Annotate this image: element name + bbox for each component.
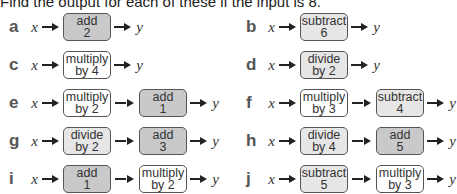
problem-h: h x divide by 4 add 5 y <box>237 126 457 156</box>
arrow-icon <box>427 136 445 146</box>
function-machine-add: add 1 <box>139 89 187 117</box>
function-machine-multiply: multiply by 3 <box>376 165 424 193</box>
arrow-icon <box>190 136 208 146</box>
function-machine-add: add 1 <box>63 165 111 193</box>
operation-value: by 4 <box>75 65 99 77</box>
operation-value: 1 <box>84 179 91 191</box>
output-variable: y <box>372 57 381 74</box>
output-variable: y <box>448 171 457 188</box>
input-variable: x <box>267 19 276 36</box>
problem-letter: g <box>0 131 30 151</box>
output-variable: y <box>211 95 220 112</box>
input-variable: x <box>267 95 276 112</box>
function-machine-multiply: multiply by 3 <box>300 89 348 117</box>
operation-value: by 2 <box>75 103 99 115</box>
operation-value: 6 <box>321 27 328 39</box>
arrow-icon <box>279 98 297 108</box>
operation-value: 5 <box>397 141 404 153</box>
arrow-icon <box>279 174 297 184</box>
function-machine-multiply: multiply by 4 <box>63 51 111 79</box>
function-machine-subtract: subtract 5 <box>300 165 348 193</box>
input-variable: x <box>267 171 276 188</box>
problem-letter: j <box>237 169 267 189</box>
function-machine-multiply: multiply by 2 <box>63 89 111 117</box>
arrow-icon <box>351 60 369 70</box>
problem-b: b x subtract 6 y <box>237 12 381 42</box>
operation-value: by 3 <box>312 103 336 115</box>
problem-letter: a <box>0 17 30 37</box>
problem-letter: i <box>0 169 30 189</box>
arrow-icon <box>427 98 445 108</box>
problem-c: c x multiply by 4 y <box>0 50 144 80</box>
operation-value: by 2 <box>312 65 336 77</box>
operation-value: 5 <box>321 179 328 191</box>
arrow-icon <box>115 98 135 108</box>
arrow-icon <box>352 98 372 108</box>
arrow-icon <box>42 174 60 184</box>
operation-value: 2 <box>84 27 91 39</box>
output-variable: y <box>448 95 457 112</box>
operation-value: by 2 <box>75 141 99 153</box>
operation-value: by 3 <box>388 179 412 191</box>
function-machine-divide: divide by 2 <box>300 51 348 79</box>
arrow-icon <box>352 136 372 146</box>
output-variable: y <box>211 133 220 150</box>
input-variable: x <box>30 57 39 74</box>
function-machine-subtract: subtract 6 <box>300 13 348 41</box>
output-variable: y <box>135 19 144 36</box>
arrow-icon <box>42 98 60 108</box>
output-variable: y <box>448 133 457 150</box>
arrow-icon <box>279 60 297 70</box>
function-machine-subtract: subtract 4 <box>376 89 424 117</box>
input-variable: x <box>267 57 276 74</box>
arrow-icon <box>190 174 208 184</box>
arrow-icon <box>279 22 297 32</box>
problem-letter: c <box>0 55 30 75</box>
arrow-icon <box>114 22 132 32</box>
arrow-icon <box>114 60 132 70</box>
output-variable: y <box>211 171 220 188</box>
arrow-icon <box>42 136 60 146</box>
function-machine-add: add 5 <box>376 127 424 155</box>
function-machine-add: add 3 <box>139 127 187 155</box>
input-variable: x <box>267 133 276 150</box>
output-variable: y <box>372 19 381 36</box>
problem-d: d x divide by 2 y <box>237 50 381 80</box>
problem-letter: e <box>0 93 30 113</box>
problem-letter: h <box>237 131 267 151</box>
problem-f: f x multiply by 3 subtract 4 y <box>237 88 457 118</box>
function-machine-add: add 2 <box>63 13 111 41</box>
operation-value: 3 <box>160 141 167 153</box>
arrow-icon <box>115 136 135 146</box>
arrow-icon <box>352 174 372 184</box>
input-variable: x <box>30 19 39 36</box>
arrow-icon <box>42 22 60 32</box>
problem-letter: b <box>237 17 267 37</box>
problem-letter: f <box>237 93 267 113</box>
arrow-icon <box>115 174 135 184</box>
operation-value: by 4 <box>312 141 336 153</box>
arrow-icon <box>190 98 208 108</box>
problem-g: g x divide by 2 add 3 y <box>0 126 220 156</box>
input-variable: x <box>30 133 39 150</box>
problem-a: a x add 2 y <box>0 12 144 42</box>
arrow-icon <box>279 136 297 146</box>
function-machine-multiply: multiply by 2 <box>139 165 187 193</box>
problem-letter: d <box>237 55 267 75</box>
operation-value: 1 <box>160 103 167 115</box>
problem-e: e x multiply by 2 add 1 y <box>0 88 220 118</box>
operation-value: 4 <box>397 103 404 115</box>
problem-i: i x add 1 multiply by 2 y <box>0 164 220 194</box>
function-machine-divide: divide by 4 <box>300 127 348 155</box>
output-variable: y <box>135 57 144 74</box>
function-machine-divide: divide by 2 <box>63 127 111 155</box>
arrow-icon <box>427 174 445 184</box>
arrow-icon <box>351 22 369 32</box>
problem-j: j x subtract 5 multiply by 3 y <box>237 164 457 194</box>
operation-value: by 2 <box>151 179 175 191</box>
arrow-icon <box>42 60 60 70</box>
instruction-text: Find the output for each of these if the… <box>0 0 321 10</box>
input-variable: x <box>30 171 39 188</box>
input-variable: x <box>30 95 39 112</box>
